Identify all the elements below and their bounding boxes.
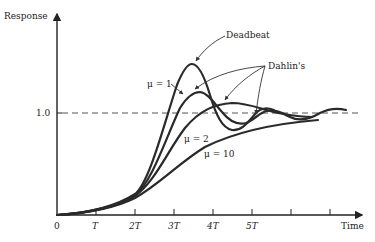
- response-plot: Response Time 1.0 0 T 2T 3T 4T 5T Deadbe…: [0, 0, 375, 242]
- y-axis-label: Response: [4, 11, 48, 21]
- x-tick-label-0: 0: [54, 221, 60, 231]
- annotation-deadbeat: Deadbeat: [226, 30, 270, 40]
- x-axis-label: Time: [341, 221, 364, 231]
- curve-mu-2: [57, 103, 312, 215]
- x-tick-label-2: 2T: [128, 221, 142, 231]
- y-tick-label-1: 1.0: [36, 108, 51, 118]
- x-tick-label-3: 3T: [168, 221, 181, 231]
- label-mu-2: μ = 2: [184, 134, 209, 144]
- x-ticks: [96, 209, 330, 215]
- leader-deadbeat: [196, 36, 225, 61]
- annotation-dahlins: Dahlin's: [268, 61, 305, 71]
- leader-dahlins-mu1: [195, 66, 265, 89]
- label-mu-1: μ = 1: [147, 79, 172, 89]
- label-mu-10: μ = 10: [204, 149, 235, 159]
- x-tick-label-1: T: [92, 221, 99, 231]
- curve-mu-1: [57, 92, 346, 215]
- x-tick-label-5: 5T: [246, 221, 259, 231]
- step-response-figure: Response Time 1.0 0 T 2T 3T 4T 5T Deadbe…: [0, 0, 375, 242]
- x-tick-label-4: 4T: [206, 221, 220, 231]
